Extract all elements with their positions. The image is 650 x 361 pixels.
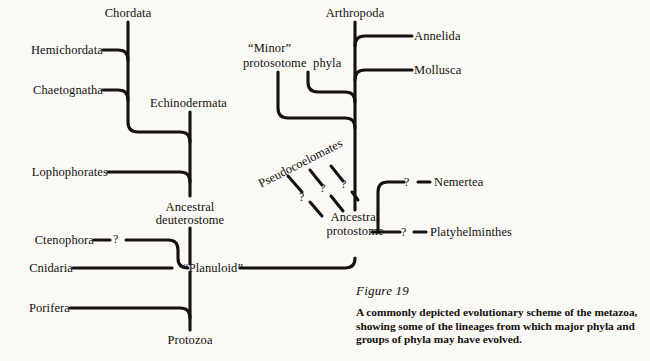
label-chaetognatha: Chaetognatha: [0, 83, 103, 97]
branch-minor-phyla-right: [308, 72, 355, 102]
label-chordata: Chordata: [78, 6, 178, 20]
label-ctenophora: Ctenophora: [0, 233, 94, 247]
label-echinodermata: Echinodermata: [150, 96, 227, 110]
branch-hemichordata: [103, 50, 128, 60]
figure-caption-text: A commonly depicted evolutionary scheme …: [356, 306, 644, 347]
question-mark-ctenophora: ?: [113, 233, 118, 245]
question-mark-nemertea: ?: [404, 176, 409, 188]
label-porifera: Porifera: [0, 301, 70, 315]
branch-porifera: [70, 308, 190, 318]
branch-chaetognatha: [103, 90, 128, 100]
label-platyhelminthes: Platyhelminthes: [430, 225, 512, 239]
question-mark-pseudocoelomate-3: ?: [341, 178, 346, 190]
figure-canvas: Chordata Hemichordata Chaetognatha Echin…: [0, 0, 650, 361]
branch-mollusca: [355, 70, 412, 80]
figure-caption-block: Figure 19 A commonly depicted evolutiona…: [356, 283, 644, 347]
branch-annelida: [355, 36, 412, 46]
label-planuloid: “Planuloid”: [183, 261, 243, 275]
question-mark-platyhelminthes: ?: [401, 226, 406, 238]
label-protozoa: Protozoa: [150, 333, 230, 347]
label-ancestral-deuterostome-line1: Ancestral: [140, 200, 240, 214]
label-lophophorates: Lophophorates: [0, 165, 108, 179]
branch-planuloid-to-protostome: [240, 258, 355, 268]
label-ancestral-protostome-line2: protostome: [305, 224, 405, 238]
branch-ctenophora-cont: [126, 240, 188, 268]
pseudocoelomate-branch-2b: [331, 196, 343, 211]
label-ancestral-deuterostome-line2: deuterostome: [140, 213, 240, 227]
question-mark-pseudocoelomate-2: ?: [320, 182, 325, 194]
branch-minor-phyla-left: [278, 72, 355, 128]
label-hemichordata: Hemichordata: [0, 43, 103, 57]
label-annelida: Annelida: [414, 29, 461, 43]
label-arthropoda: Arthropoda: [305, 6, 405, 20]
label-minor-phyla-line1: “Minor”: [248, 41, 291, 55]
label-ancestral-protostome-line1: Ancestral: [305, 210, 405, 224]
label-mollusca: Mollusca: [414, 63, 461, 77]
branch-chordata: [128, 22, 190, 142]
label-minor-phyla-line2: protosotome phyla: [243, 56, 341, 70]
figure-number: Figure 19: [356, 283, 644, 299]
label-nemertea: Nemertea: [434, 175, 483, 189]
branch-lophophorates: [108, 172, 190, 182]
question-mark-pseudocoelomate-1: ?: [299, 191, 304, 203]
label-cnidaria: Cnidaria: [0, 261, 73, 275]
